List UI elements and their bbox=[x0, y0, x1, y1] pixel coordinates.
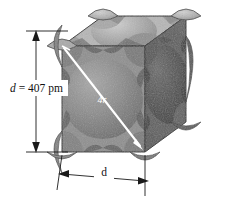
horizontal-dimension-label: d bbox=[101, 166, 107, 178]
unit-cell-illustration: 4r d = 407 pm d bbox=[0, 0, 243, 206]
vertical-arrowhead-up bbox=[32, 30, 40, 41]
vertical-dimension-value: 407 bbox=[28, 82, 46, 94]
vertical-dimension-unit: pm bbox=[45, 82, 63, 95]
fcc-unit-cell-figure: 4r d = 407 pm d bbox=[0, 0, 243, 206]
diagonal-label: 4r bbox=[98, 94, 107, 105]
vertical-dimension-label: d = 407 pm bbox=[10, 82, 63, 95]
horizontal-arrowhead-right bbox=[138, 177, 149, 185]
vertical-dimension-equals: = bbox=[16, 82, 28, 94]
vertical-arrowhead-down bbox=[32, 142, 40, 153]
